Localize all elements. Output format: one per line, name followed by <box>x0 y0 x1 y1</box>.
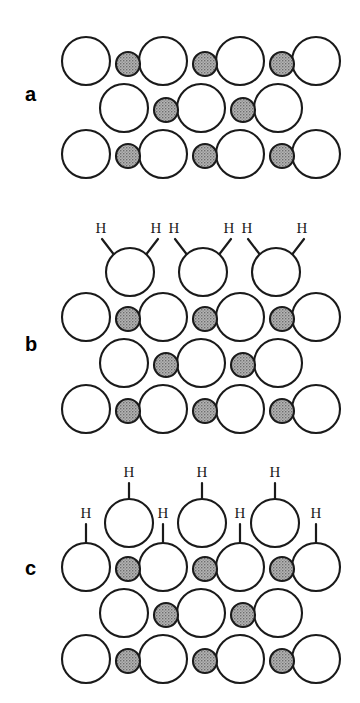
hydrogen-label-c-5: H <box>235 505 246 521</box>
large-atom-c-3 <box>62 543 110 591</box>
large-atom-c-5 <box>216 543 264 591</box>
large-atom-b-1 <box>179 248 227 296</box>
small-atom-a-3 <box>154 98 178 122</box>
large-atom-c-1 <box>178 499 226 547</box>
bond-b-0 <box>102 239 115 256</box>
large-atom-b-6 <box>292 293 340 341</box>
large-atom-a-1 <box>139 37 187 85</box>
hydrogen-label-c-4: H <box>158 505 169 521</box>
hydrogen-label-c-0: H <box>124 464 135 480</box>
hydrogen-label-b-3: H <box>224 220 235 236</box>
small-atom-b-6 <box>193 399 217 423</box>
panel-label-b: b <box>25 334 37 354</box>
large-atom-c-11 <box>139 635 187 683</box>
large-atom-a-9 <box>216 130 264 178</box>
small-atom-b-2 <box>270 307 294 331</box>
large-atom-c-8 <box>177 589 225 637</box>
large-atom-c-4 <box>139 543 187 591</box>
large-atom-b-5 <box>216 293 264 341</box>
large-atom-c-7 <box>100 589 148 637</box>
large-atom-a-4 <box>100 84 148 132</box>
large-atom-c-13 <box>292 635 340 683</box>
large-atom-b-9 <box>254 339 302 387</box>
small-atom-c-5 <box>116 649 140 673</box>
small-atom-a-0 <box>116 52 140 76</box>
large-atom-b-3 <box>62 293 110 341</box>
large-atom-a-5 <box>177 84 225 132</box>
large-atom-b-10 <box>62 385 110 433</box>
panel-a <box>62 37 340 178</box>
small-atom-c-0 <box>116 557 140 581</box>
bond-b-2 <box>175 239 188 256</box>
panel-label-c: c <box>25 558 36 578</box>
large-atom-c-12 <box>216 635 264 683</box>
small-atom-b-4 <box>231 353 255 377</box>
lattice-diagram-canvas: HHHHHHHHHHHHH <box>0 0 360 703</box>
large-atom-c-2 <box>251 499 299 547</box>
hydrogen-label-c-3: H <box>81 505 92 521</box>
hydrogen-label-b-2: H <box>169 220 180 236</box>
large-atom-a-8 <box>139 130 187 178</box>
hydrogen-label-b-5: H <box>297 220 308 236</box>
small-atom-a-7 <box>270 144 294 168</box>
hydrogen-label-b-4: H <box>242 220 253 236</box>
small-atom-a-4 <box>231 98 255 122</box>
large-atom-b-4 <box>139 293 187 341</box>
large-atom-b-12 <box>216 385 264 433</box>
panel-c: HHHHHHH <box>62 464 340 683</box>
hydrogen-label-b-1: H <box>151 220 162 236</box>
small-atom-b-7 <box>270 399 294 423</box>
large-atom-a-0 <box>62 37 110 85</box>
small-atom-c-1 <box>193 557 217 581</box>
large-atom-b-8 <box>177 339 225 387</box>
large-atom-a-3 <box>292 37 340 85</box>
hydrogen-label-c-2: H <box>270 464 281 480</box>
hydrogen-label-b-0: H <box>96 220 107 236</box>
small-atom-c-6 <box>193 649 217 673</box>
small-atom-c-7 <box>270 649 294 673</box>
small-atom-c-3 <box>154 603 178 627</box>
large-atom-a-2 <box>216 37 264 85</box>
small-atom-a-1 <box>193 52 217 76</box>
bond-b-1 <box>145 239 158 256</box>
panel-b: HHHHHH <box>62 220 340 433</box>
large-atom-b-13 <box>292 385 340 433</box>
panel-label-a: a <box>25 84 36 104</box>
bond-b-5 <box>291 239 304 256</box>
large-atom-c-9 <box>254 589 302 637</box>
bond-b-4 <box>248 239 261 256</box>
small-atom-b-0 <box>116 307 140 331</box>
small-atom-b-5 <box>116 399 140 423</box>
large-atom-c-10 <box>62 635 110 683</box>
large-atom-b-0 <box>106 248 154 296</box>
small-atom-a-6 <box>193 144 217 168</box>
small-atom-c-4 <box>231 603 255 627</box>
small-atom-a-5 <box>116 144 140 168</box>
small-atom-a-2 <box>270 52 294 76</box>
panels-group: HHHHHHHHHHHHH <box>62 37 340 683</box>
large-atom-a-6 <box>254 84 302 132</box>
large-atom-c-0 <box>105 499 153 547</box>
hydrogen-label-c-1: H <box>197 464 208 480</box>
small-atom-b-3 <box>154 353 178 377</box>
bond-b-3 <box>218 239 231 256</box>
small-atom-c-2 <box>270 557 294 581</box>
hydrogen-label-c-6: H <box>311 505 322 521</box>
large-atom-a-10 <box>292 130 340 178</box>
small-atom-b-1 <box>193 307 217 331</box>
large-atom-b-2 <box>252 248 300 296</box>
large-atom-a-7 <box>62 130 110 178</box>
large-atom-b-11 <box>139 385 187 433</box>
large-atom-c-6 <box>292 543 340 591</box>
large-atom-b-7 <box>100 339 148 387</box>
